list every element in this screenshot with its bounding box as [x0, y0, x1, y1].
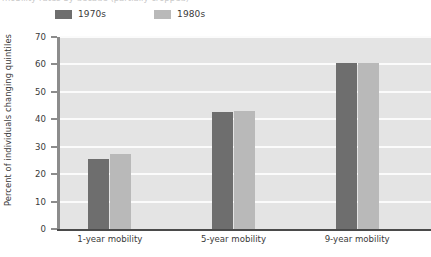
- cropped-caption-text: mobility rates by decade (partially crop…: [2, 0, 189, 3]
- legend-item-1980s: 1980s: [154, 9, 205, 19]
- x-axis-label-2: 5-year mobility: [201, 234, 266, 244]
- y-tick-label-70: 70: [0, 32, 46, 42]
- plot-area: [60, 37, 431, 229]
- y-tick-70: [51, 36, 57, 38]
- y-tick-label-20: 20: [0, 169, 46, 179]
- x-axis-spine: [57, 229, 431, 231]
- bar-1970s-5-year-mobility: [212, 112, 233, 229]
- legend-swatch-1980s: [154, 10, 171, 19]
- bar-1970s-1-year-mobility: [88, 159, 109, 229]
- y-tick-50: [51, 91, 57, 93]
- bar-1980s-5-year-mobility: [234, 111, 255, 229]
- gridline-70: [60, 36, 431, 38]
- cropped-caption-strip: mobility rates by decade (partially crop…: [0, 0, 431, 7]
- x-axis-label-3: 9-year mobility: [325, 234, 390, 244]
- y-tick-30: [51, 146, 57, 148]
- y-tick-0: [51, 228, 57, 230]
- y-tick-label-10: 10: [0, 197, 46, 207]
- legend-item-1970s: 1970s: [55, 9, 106, 19]
- y-tick-60: [51, 63, 57, 65]
- y-tick-10: [51, 201, 57, 203]
- y-tick-label-50: 50: [0, 87, 46, 97]
- chart-legend: 1970s 1980s: [55, 7, 253, 21]
- bar-1980s-9-year-mobility: [358, 63, 379, 229]
- y-tick-label-60: 60: [0, 59, 46, 69]
- y-tick-20: [51, 173, 57, 175]
- y-axis-spine: [57, 37, 60, 230]
- bar-1970s-9-year-mobility: [336, 63, 357, 229]
- legend-label-1970s: 1970s: [78, 9, 106, 19]
- x-axis-label-1: 1-year mobility: [77, 234, 142, 244]
- legend-swatch-1970s: [55, 10, 72, 19]
- y-tick-label-30: 30: [0, 142, 46, 152]
- y-tick-40: [51, 118, 57, 120]
- y-tick-label-0: 0: [0, 224, 46, 234]
- y-tick-label-40: 40: [0, 114, 46, 124]
- legend-label-1980s: 1980s: [177, 9, 205, 19]
- bar-1980s-1-year-mobility: [110, 154, 131, 229]
